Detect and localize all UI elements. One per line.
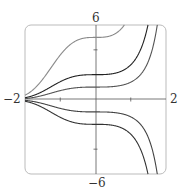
x-max-label: 2: [170, 93, 178, 105]
x-min-label: −2: [3, 93, 21, 105]
solution-curves-chart: [0, 0, 187, 195]
solution-curve: [25, 25, 124, 95]
y-max-label: 6: [92, 12, 100, 24]
solution-curve: [25, 100, 158, 174]
axis-ticks: [60, 50, 131, 149]
curve-group: [25, 25, 158, 174]
y-min-label: −6: [88, 177, 106, 189]
plot-frame: [25, 25, 166, 174]
solution-curve: [25, 25, 158, 99]
